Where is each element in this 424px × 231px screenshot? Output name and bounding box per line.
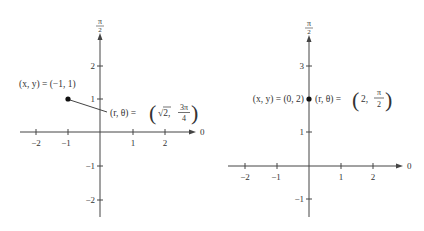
left-plot [20,38,190,217]
right-pi-over-2-den: 2 [307,28,311,36]
right-xtick-label: 2 [371,172,376,182]
left-y-arrow-icon [98,33,103,40]
left-ytick-label: 2 [91,61,96,71]
left-polar-theta-num: 3π [180,103,188,112]
right-point [306,96,311,101]
left-x-arrow-icon [189,130,196,135]
left-ytick-label: 1 [91,94,96,104]
right-rect-coordinate-label: (x, y) = (0, 2) [253,94,304,105]
right-plot [228,40,397,217]
right-polar-r: 2, [361,94,368,104]
right-xtick-label: −1 [271,172,281,182]
right-ytick-label: 3 [300,61,305,71]
left-xtick-label: 1 [131,138,136,148]
right-polar-theta-den: 2 [377,100,381,109]
right-open-paren: ( [352,87,359,112]
right-xtick-label: −2 [240,172,250,182]
left-xtick-label: −1 [61,138,71,148]
right-close-paren: ) [385,87,392,112]
left-point [65,96,70,101]
right-pi-over-2-num: π [307,19,311,28]
left-open-paren: ( [149,100,156,125]
left-polar-r: √2, [158,108,170,118]
right-ytick-label: −1 [294,194,304,204]
right-polar-label-prefix: (r, θ) = [315,94,341,105]
left-pi-over-2-den: 2 [98,26,102,34]
left-zero-label: 0 [200,127,205,137]
left-xtick-label: 2 [163,138,168,148]
right-zero-label: 0 [407,161,412,171]
left-pi-over-2-num: π [98,17,102,26]
left-leader-line [70,100,107,112]
left-ytick-label: −2 [85,195,95,205]
polar-coordinates-figure: π 2 0 −2 −1 1 2 2 1 −1 −2 (x, y) = (−1, … [0,0,424,231]
right-xtick-label: 1 [339,172,344,182]
left-polar-theta-den: 4 [182,114,186,123]
left-polar-label-prefix: (r, θ) = [110,108,136,119]
left-ytick-label: −1 [85,161,95,171]
left-xtick-label: −2 [31,138,41,148]
right-x-arrow-icon [396,164,403,169]
left-rect-coordinate-label: (x, y) = (−1, 1) [19,79,76,90]
left-close-paren: ) [191,100,198,125]
right-polar-theta-num: π [377,88,381,97]
right-y-arrow-icon [307,35,312,42]
right-ytick-label: 1 [300,127,305,137]
